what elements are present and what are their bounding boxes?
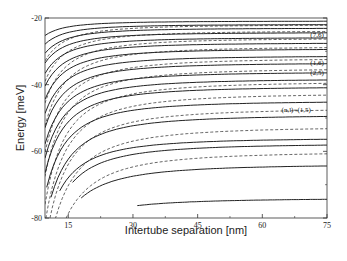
y-tick-label: -80	[31, 214, 42, 223]
dashed-curve	[45, 48, 327, 126]
dashed-curve	[45, 25, 327, 61]
dashed-curve	[45, 39, 327, 103]
y-tick-label: -40	[31, 81, 42, 90]
y-tick-label: -20	[31, 14, 42, 23]
x-tick-label: 60	[258, 221, 266, 230]
energy-vs-separation-chart: 1530456075 -20-40-60-80 (7,6)(1,6)(2,5)(…	[0, 0, 347, 261]
y-axis-title: Energy [meV]	[14, 85, 26, 152]
curve-label: (2,5)	[310, 69, 324, 77]
solid-curve	[45, 80, 327, 158]
curve-label: (1,6)	[310, 59, 324, 67]
solid-curve	[73, 145, 327, 182]
solid-curve	[60, 139, 327, 191]
x-tick-label: 15	[64, 221, 72, 230]
energy-level-curves	[45, 21, 327, 223]
solid-curve	[51, 116, 327, 197]
curve-label: (n,l)=(1,5)	[282, 106, 312, 114]
solid-curve	[81, 166, 327, 198]
x-tick-label: 75	[323, 221, 331, 230]
solid-curve	[137, 199, 327, 205]
solid-curve	[45, 57, 327, 114]
x-axis-title: Intertube separation [nm]	[125, 224, 247, 236]
curve-label: (7,6)	[310, 31, 324, 39]
dashed-curve	[64, 154, 327, 223]
y-tick-label: -60	[31, 147, 42, 156]
dashed-curve	[45, 83, 327, 204]
solid-curve	[45, 88, 327, 173]
